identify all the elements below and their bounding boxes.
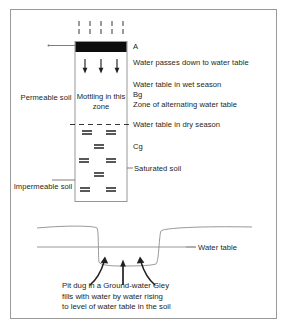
a-horizon-band [76,42,127,52]
label-water-passes-down: Water passes down to water table [133,58,249,67]
label-alternating-zone: Zone of alternating water table [133,100,237,109]
impermeable-soil-label: Impermeable soil [10,182,76,191]
label-bg-horizon: Bg [133,90,142,99]
label-cg-horizon: Cg [133,142,143,151]
label-saturated-soil: Saturated soil [134,164,181,173]
soil-profile-figure: Mottling in this zone Permeable soil Imp… [0,0,288,330]
pit-water-table-label: Water table [198,243,237,252]
label-a-horizon: A [133,42,138,51]
mottling-zone-label: Mottling in this zone [73,92,129,111]
rainfall-lines [79,21,123,34]
label-dry-season-water-table: Water table in dry season [133,120,220,129]
a-horizon-leader-dot [48,45,50,47]
pit-caption: Pit dug in a Ground-water Gley fills wit… [62,281,171,313]
label-wet-season-water-table: Water table in wet season [133,80,221,89]
permeable-soil-label: Permeable soil [17,93,75,102]
